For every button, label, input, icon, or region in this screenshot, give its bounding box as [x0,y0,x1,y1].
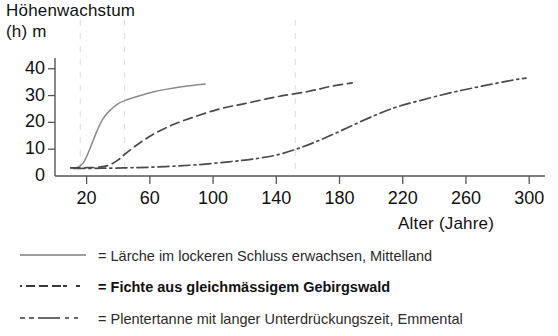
gridlines-group [80,20,295,176]
legend-swatch-solid [18,248,90,264]
y-tick-marks [48,69,55,149]
legend-swatch-dashdot [18,311,90,327]
axes-group [55,58,545,176]
x-tick-label-220: 220 [378,188,428,209]
x-axis-label: Alter (Jahre) [398,214,494,234]
series-curve-0 [71,84,205,168]
x-tick-label-140: 140 [251,188,301,209]
legend-item-plentertanne: = Plentertanne mit langer Unterdrückungs… [18,310,463,327]
x-tick-label-100: 100 [188,188,238,209]
series-curve-1 [71,83,352,168]
legend-item-laerche: = Lärche im lockeren Schluss erwachsen, … [18,247,432,264]
growth-curve-chart: Höhenwachstum (h) m 010203040 2060100140… [0,0,558,336]
x-tick-label-180: 180 [315,188,365,209]
x-tick-label-20: 20 [62,188,112,209]
y-tick-label-10: 10 [3,138,45,159]
legend-label-laerche: = Lärche im lockeren Schluss erwachsen, … [94,248,432,264]
series-curve-2 [74,78,526,168]
y-tick-label-30: 30 [3,85,45,106]
x-tick-marks [87,176,530,184]
series-curves [71,78,526,168]
y-tick-label-20: 20 [3,111,45,132]
x-tick-label-300: 300 [504,188,554,209]
y-tick-label-0: 0 [3,165,45,186]
legend-item-fichte: = Fichte aus gleichmässigem Gebirgswald [18,278,390,295]
legend-swatch-dashed [18,279,90,295]
legend-label-plentertanne: = Plentertanne mit langer Unterdrückungs… [94,311,463,327]
x-tick-label-60: 60 [125,188,175,209]
legend-label-fichte: = Fichte aus gleichmässigem Gebirgswald [94,279,390,295]
y-tick-label-40: 40 [3,58,45,79]
x-tick-label-260: 260 [441,188,491,209]
